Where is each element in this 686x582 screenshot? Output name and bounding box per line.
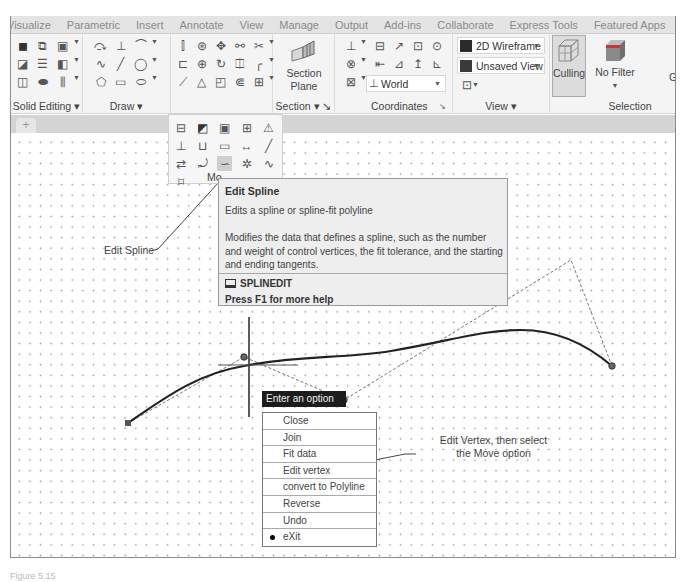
tab-visualize[interactable]: Visualize — [10, 19, 59, 31]
dialog-launcher-icon[interactable]: ↘ — [439, 102, 446, 111]
break-at-point-icon[interactable]: ▭ — [217, 138, 232, 153]
explode-icon[interactable]: ✲ — [239, 156, 254, 171]
tab-express-tools[interactable]: Express Tools — [502, 19, 586, 31]
ucs-object-icon[interactable]: ⊙ — [429, 38, 444, 53]
no-filter-button[interactable]: No Filter ▼ — [590, 37, 640, 92]
3d-scale-icon[interactable]: △ — [194, 74, 209, 89]
offset-icon[interactable]: ⋐ — [232, 74, 247, 89]
reverse-icon[interactable]: ⇄ — [173, 156, 188, 171]
panel-title-section[interactable]: Section ▾ ↘ — [273, 100, 334, 112]
option-convert-to-polyline[interactable]: convert to Polyline — [263, 479, 376, 496]
tab-annotate[interactable]: Annotate — [172, 19, 232, 31]
edit-polyline-icon[interactable]: ◩ — [195, 120, 210, 135]
spline-fit-icon[interactable]: ∿ — [261, 156, 276, 171]
ucs-icon[interactable]: ⊥ — [343, 38, 358, 53]
dropdown-arrow-icon[interactable]: ▼ — [73, 56, 81, 71]
join-icon[interactable]: ↔ — [239, 138, 254, 153]
ucs-3point-icon[interactable]: ⊿ — [391, 56, 406, 71]
ucs-view-icon[interactable]: ⊡ — [410, 38, 425, 53]
option-undo[interactable]: Undo — [263, 513, 376, 530]
line-icon[interactable]: ╱ — [113, 56, 128, 71]
option-exit[interactable]: eXit — [263, 529, 376, 546]
panel-title-solid-editing[interactable]: Solid Editing ▾ — [11, 100, 82, 112]
union-icon[interactable]: ◼ — [15, 38, 30, 53]
trim-icon[interactable]: ✂ — [251, 38, 266, 53]
imprint-icon[interactable]: ⬬ — [35, 74, 50, 89]
shell-icon[interactable]: ⫼ — [55, 74, 70, 89]
new-tab-button[interactable]: + — [16, 118, 36, 133]
dropdown-arrow-icon[interactable]: ▼ — [360, 56, 368, 71]
move-icon[interactable]: ✥ — [213, 38, 228, 53]
circle-icon[interactable]: ◯ — [133, 56, 148, 71]
spline-icon[interactable]: ∿ — [93, 56, 108, 71]
option-close[interactable]: Close — [263, 413, 376, 430]
tab-insert[interactable]: Insert — [128, 19, 172, 31]
3d-align-icon[interactable]: ⊕ — [194, 56, 209, 71]
named-view-combo[interactable]: Unsaved View ▼ — [457, 57, 545, 74]
dropdown-arrow-icon[interactable]: ▼ — [73, 38, 81, 53]
ucs-combo[interactable]: ⊥ World ▼ — [366, 75, 446, 92]
ucs-z-axis-icon[interactable]: ↥ — [410, 56, 425, 71]
culling-button[interactable]: Culling — [552, 35, 586, 97]
ucs-origin-icon[interactable]: ⊗ — [343, 56, 358, 71]
array-edit-icon[interactable]: ⊞ — [239, 120, 254, 135]
ellipse-icon[interactable]: ⬭ — [133, 74, 148, 89]
tab-parametric[interactable]: Parametric — [59, 19, 128, 31]
erase-icon[interactable]: ⟋ — [175, 74, 190, 89]
stretch-icon[interactable]: ⎅ — [232, 56, 247, 71]
section-plane-button[interactable]: Section Plane — [279, 38, 329, 93]
extrude-faces-icon[interactable]: ▣ — [55, 38, 70, 53]
rotate-icon[interactable]: ↻ — [213, 56, 228, 71]
array-icon[interactable]: ⚯ — [232, 38, 247, 53]
polygon-icon[interactable]: ⬠ — [93, 74, 108, 89]
ucs-icon-props-icon[interactable]: ⊠ — [343, 74, 358, 89]
tab-collaborate[interactable]: Collaborate — [429, 19, 501, 31]
solid-edit-icon[interactable]: ▣ — [217, 120, 232, 135]
extract-edges-icon[interactable]: ⧉ — [35, 38, 50, 53]
panel-title-view[interactable]: View ▾ — [453, 100, 549, 112]
viewport-button[interactable]: ⊡ ▼ — [459, 77, 479, 92]
option-reverse[interactable]: Reverse — [263, 496, 376, 513]
tab-manage[interactable]: Manage — [271, 19, 327, 31]
lengthen-icon[interactable]: ⊥ — [173, 138, 188, 153]
chamfer-icon[interactable]: ╱ — [261, 138, 276, 153]
tab-view[interactable]: View — [232, 19, 272, 31]
visual-style-combo[interactable]: 2D Wireframe ▼ — [457, 37, 545, 54]
ucs-3-icon[interactable]: ⊾ — [429, 56, 444, 71]
subtract-icon[interactable]: ◪ — [15, 56, 30, 71]
edit-spline-icon[interactable]: ∽ — [217, 156, 232, 171]
separate-icon[interactable]: ◧ — [55, 56, 70, 71]
option-edit-vertex[interactable]: Edit vertex — [263, 463, 376, 480]
polyline-icon[interactable]: ⤼ — [93, 38, 108, 53]
ucs-named-icon[interactable]: ⊟ — [372, 38, 387, 53]
set-priority-icon[interactable]: ⌑ — [173, 174, 188, 189]
align-icon[interactable]: ⊏ — [175, 56, 190, 71]
panel-title-draw[interactable]: Draw ▾ — [83, 100, 170, 112]
fillet-icon[interactable]: ╭ — [251, 56, 266, 71]
ucs-z-icon[interactable]: ↗ — [391, 38, 406, 53]
break-icon[interactable]: ⊔ — [195, 138, 210, 153]
ucs-previous-icon[interactable]: ⇤ — [372, 56, 387, 71]
tab-output[interactable]: Output — [327, 19, 376, 31]
option-fit-data[interactable]: Fit data — [263, 446, 376, 463]
intersect-icon[interactable]: ◫ — [15, 74, 30, 89]
rectangular-array-icon[interactable]: ⊞ — [251, 74, 266, 89]
dropdown-arrow-icon[interactable]: ▼ — [151, 56, 159, 71]
scale-icon[interactable]: ◰ — [213, 74, 228, 89]
dropdown-arrow-icon[interactable]: ▼ — [73, 74, 81, 89]
rectangle-icon[interactable]: ▭ — [113, 74, 128, 89]
dropdown-arrow-icon[interactable]: ▼ — [151, 74, 159, 89]
blend-curves-icon[interactable]: ⤾ — [195, 156, 210, 171]
3d-rotate-icon[interactable]: ⊛ — [194, 38, 209, 53]
edit-hatch-icon[interactable]: ⊟ — [173, 120, 188, 135]
slice-icon[interactable]: ☰ — [35, 56, 50, 71]
mirror-icon[interactable]: ⫿ — [175, 38, 190, 53]
polysolid-icon[interactable]: ⊥ — [113, 38, 128, 53]
warning-icon[interactable]: ⚠ — [261, 120, 276, 135]
tab-add-ins[interactable]: Add-ins — [376, 19, 429, 31]
option-join[interactable]: Join — [263, 430, 376, 447]
tab-featured-apps[interactable]: Featured Apps — [586, 19, 674, 31]
dropdown-arrow-icon[interactable]: ▼ — [360, 38, 368, 53]
arc-icon[interactable]: ⌒ — [133, 38, 148, 53]
dropdown-arrow-icon[interactable]: ▼ — [151, 38, 159, 53]
